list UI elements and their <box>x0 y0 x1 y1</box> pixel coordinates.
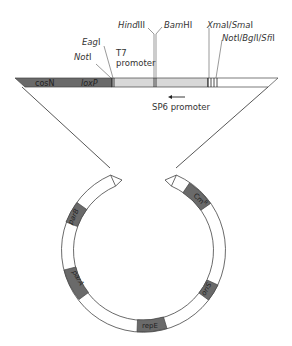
light-region <box>112 78 208 87</box>
site-label-xmai-smai: XmaI/SmaI <box>206 20 253 30</box>
repe-label: repE <box>142 322 158 330</box>
funnel-left-line <box>22 87 110 168</box>
site-label-bamhi: BamHI <box>164 20 192 30</box>
cosn-label: cosN <box>35 79 54 88</box>
loxp-label: loxP <box>81 79 98 88</box>
site-label-noti: NotI <box>74 52 91 62</box>
left-arrow-icon <box>168 95 185 99</box>
funnel-right-line <box>176 87 268 168</box>
site-label-eagi: EagI <box>82 37 101 47</box>
t7-promoter-label-line2: promoter <box>116 58 156 68</box>
vector-map-diagram: cosN loxP NotI EagI HindIII BamHI XmaI/S… <box>0 0 292 346</box>
plasmid-ring: CmR oriS repE parA parB <box>61 175 225 332</box>
site-label-noti-bgli-sfii: NotI/BglI/SfiI <box>222 33 275 43</box>
sp6-promoter-label: SP6 promoter <box>152 102 211 112</box>
white-region <box>208 78 278 87</box>
site-label-hindiii: HindIII <box>118 20 145 30</box>
t7-promoter-label-line1: T7 <box>115 48 127 58</box>
vector-bar: cosN loxP <box>15 78 278 88</box>
